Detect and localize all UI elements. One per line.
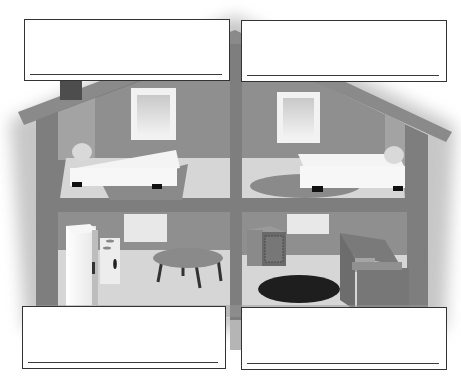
answer-box-top-left[interactable] xyxy=(24,19,230,81)
cabinet xyxy=(247,226,286,266)
bed-leg xyxy=(152,184,162,189)
stove xyxy=(100,238,120,284)
pillow xyxy=(384,146,404,164)
bed xyxy=(300,166,405,188)
pillow xyxy=(72,143,92,161)
bed-leg xyxy=(393,186,403,191)
answer-line xyxy=(247,75,439,76)
bed-leg xyxy=(72,182,82,187)
answer-box-bottom-left[interactable] xyxy=(22,306,226,369)
answer-line xyxy=(30,74,222,75)
refrigerator xyxy=(66,226,96,308)
answer-line xyxy=(247,363,439,364)
bed-leg xyxy=(312,186,323,192)
window xyxy=(124,214,167,242)
answer-box-top-right[interactable] xyxy=(241,20,447,82)
answer-box-bottom-right[interactable] xyxy=(241,307,447,370)
black-rug xyxy=(258,275,340,303)
answer-line xyxy=(28,362,218,363)
window xyxy=(287,214,329,234)
bed xyxy=(70,168,177,186)
